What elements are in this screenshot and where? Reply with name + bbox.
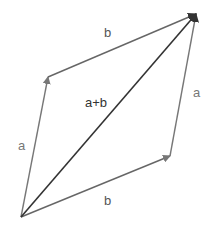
label-b-top: b	[104, 26, 111, 39]
vector-resultant	[21, 14, 196, 217]
label-b-bottom: b	[104, 194, 111, 207]
label-a-right: a	[193, 86, 200, 99]
vector-b-top	[48, 14, 196, 77]
label-resultant: a+b	[85, 96, 107, 109]
label-a-left: a	[18, 139, 25, 152]
vector-b-bottom	[21, 156, 170, 217]
